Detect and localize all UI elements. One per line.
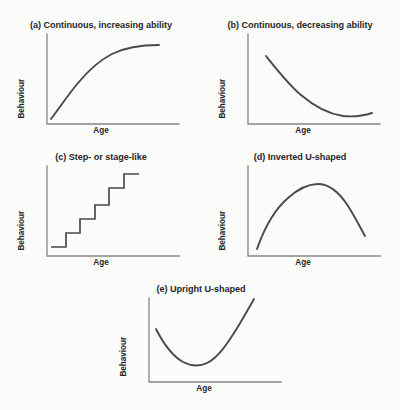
panel-b-y-axis-label: Behaviour: [218, 67, 227, 119]
panel-d-inverted-u-shaped: (d) Inverted U-shaped Behaviour Age: [204, 152, 396, 294]
panel-a-continuous-increasing: (a) Continuous, increasing ability Behav…: [6, 20, 196, 162]
panel-a-plot-area: [40, 33, 186, 129]
panel-d-plot-area: [241, 165, 387, 261]
panel-b-axes: [248, 34, 380, 124]
panel-e-upright-u-shaped: (e) Upright U-shaped Behaviour Age: [105, 284, 297, 408]
panel-b-plot-area: [241, 33, 387, 129]
panel-b-title: (b) Continuous, decreasing ability: [204, 20, 396, 31]
panel-d-title: (d) Inverted U-shaped: [204, 152, 396, 163]
panel-e-title: (e) Upright U-shaped: [105, 284, 297, 295]
panel-e-y-axis-label: Behaviour: [119, 325, 128, 377]
panel-a-y-axis-label: Behaviour: [17, 67, 26, 119]
panel-a-curve: [51, 45, 159, 119]
panel-b-curve: [266, 56, 372, 116]
panel-a-axes: [47, 34, 179, 124]
panel-c-step-line: [51, 174, 139, 247]
panel-b-continuous-decreasing: (b) Continuous, decreasing ability Behav…: [204, 20, 396, 162]
panel-e-axes: [149, 298, 281, 382]
panel-d-y-axis-label: Behaviour: [218, 199, 227, 251]
panel-c-title: (c) Step- or stage-like: [6, 152, 196, 163]
panel-c-plot-area: [40, 165, 186, 261]
figure-panel-grid: (a) Continuous, increasing ability Behav…: [0, 0, 400, 410]
panel-a-title: (a) Continuous, increasing ability: [6, 20, 196, 31]
panel-d-axes: [248, 166, 380, 256]
panel-e-curve: [156, 299, 254, 366]
panel-c-y-axis-label: Behaviour: [17, 199, 26, 251]
panel-c-step-or-stage-like: (c) Step- or stage-like Behaviour Age: [6, 152, 196, 294]
panel-d-curve: [257, 184, 365, 249]
panel-e-plot-area: [142, 297, 288, 389]
